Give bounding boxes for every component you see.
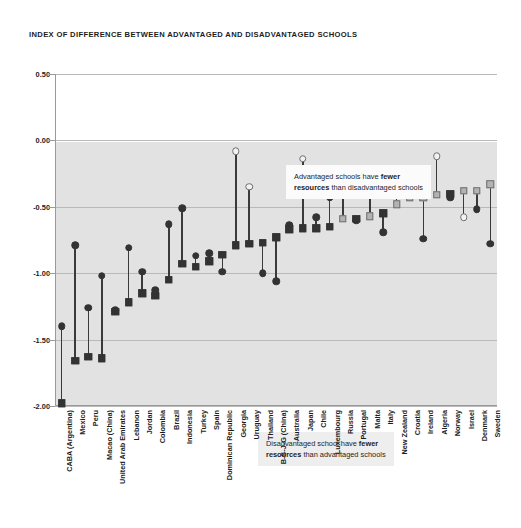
connector-line xyxy=(61,326,63,403)
square-marker xyxy=(272,234,280,242)
circle-marker xyxy=(125,244,133,252)
x-tick-label: Denmark xyxy=(480,410,489,441)
y-tick-label: 0.00 xyxy=(36,136,50,145)
circle-marker xyxy=(433,153,441,161)
circle-marker xyxy=(245,183,253,191)
circle-marker xyxy=(192,252,200,260)
x-tick-label: Malta xyxy=(373,410,382,429)
x-tick-label: Colombia xyxy=(158,410,167,443)
square-marker xyxy=(245,240,253,248)
square-marker xyxy=(473,187,481,195)
chart-title: INDEX OF DIFFERENCE BETWEEN ADVANTAGED A… xyxy=(29,30,357,39)
square-marker xyxy=(393,200,401,208)
x-tick-label: Sweden xyxy=(493,410,502,438)
connector-line xyxy=(490,184,492,244)
x-tick-label: Croatia xyxy=(413,410,422,435)
connector-line xyxy=(74,245,76,361)
x-tick-label: Thailand xyxy=(266,410,275,440)
x-tick-label: Australia xyxy=(292,410,301,441)
grid-line xyxy=(55,74,497,75)
y-axis-labels: 0.500.00-0.50-1.00-1.50-2.00 xyxy=(0,74,50,406)
y-tick-label: -2.00 xyxy=(33,402,50,411)
circle-marker xyxy=(487,240,495,248)
x-axis-labels: CABA (Argentina)MexicoPeruMacao (China)U… xyxy=(55,406,497,528)
connector-line xyxy=(88,308,90,357)
square-marker xyxy=(312,224,320,232)
square-marker xyxy=(299,224,307,232)
circle-marker xyxy=(98,272,106,280)
x-tick-label: New Zealand xyxy=(400,410,409,455)
circle-marker xyxy=(299,155,307,163)
circle-marker xyxy=(473,206,481,214)
x-tick-label: Mexico xyxy=(78,410,87,435)
x-tick-label: Indonesia xyxy=(185,410,194,444)
circle-marker xyxy=(219,268,227,276)
connector-line xyxy=(248,187,250,244)
annotation-advantaged-line1: Advantaged schools have fewer xyxy=(294,172,400,181)
square-marker xyxy=(125,299,133,307)
circle-marker xyxy=(205,250,213,258)
x-tick-label: Norway xyxy=(453,410,462,436)
connector-line xyxy=(128,248,130,302)
square-marker xyxy=(366,212,374,220)
circle-marker xyxy=(272,277,280,285)
square-marker xyxy=(112,308,120,316)
square-marker xyxy=(353,215,361,223)
plot-area: Advantaged schools have fewer resources … xyxy=(55,74,497,406)
square-marker xyxy=(85,353,93,361)
grid-line xyxy=(55,340,497,341)
x-tick-label: Algeria xyxy=(440,410,449,435)
circle-marker xyxy=(71,242,79,250)
grid-line xyxy=(55,140,497,141)
square-marker xyxy=(71,357,79,365)
connector-line xyxy=(275,237,277,281)
square-marker xyxy=(98,354,106,362)
circle-marker xyxy=(379,228,387,236)
x-tick-label: Luxembourg xyxy=(333,410,342,454)
circle-marker xyxy=(420,235,428,243)
square-marker xyxy=(219,251,227,259)
square-marker xyxy=(286,226,294,234)
x-tick-label: Italy xyxy=(386,410,395,425)
square-marker xyxy=(205,257,213,265)
square-marker xyxy=(460,187,468,195)
x-tick-label: Macao (China) xyxy=(105,410,114,460)
circle-marker xyxy=(85,304,93,312)
square-marker xyxy=(152,292,160,300)
square-marker xyxy=(379,210,387,218)
x-tick-label: Uruguay xyxy=(252,410,261,440)
x-tick-label: Georgia xyxy=(239,410,248,438)
y-tick-label: -0.50 xyxy=(33,202,50,211)
x-tick-label: Lebanon xyxy=(132,410,141,440)
circle-marker xyxy=(460,214,468,222)
x-tick-label: Chile xyxy=(319,410,328,428)
connector-line xyxy=(168,224,170,280)
x-tick-label: Brazil xyxy=(172,410,181,430)
x-tick-label: CABA (Argentina) xyxy=(65,410,74,472)
circle-marker xyxy=(165,220,173,228)
square-marker xyxy=(339,215,347,223)
grid-line xyxy=(55,207,497,208)
circle-marker xyxy=(138,268,146,276)
square-marker xyxy=(178,260,186,268)
connector-line xyxy=(101,276,103,358)
x-tick-label: Israel xyxy=(467,410,476,429)
square-marker xyxy=(326,223,334,231)
connector-line xyxy=(235,151,237,245)
y-tick-label: -1.00 xyxy=(33,269,50,278)
connector-line xyxy=(436,156,438,195)
x-tick-label: Peru xyxy=(91,410,100,426)
y-tick-label: -1.50 xyxy=(33,335,50,344)
square-marker xyxy=(138,289,146,297)
square-marker xyxy=(192,263,200,271)
connector-line xyxy=(423,198,425,239)
x-tick-label: Russia xyxy=(346,410,355,434)
x-tick-label: B-S-J-G (China) xyxy=(279,410,288,464)
x-tick-label: Dominican Republic xyxy=(225,410,234,480)
square-marker xyxy=(259,239,267,247)
y-axis-line xyxy=(55,74,56,406)
square-marker xyxy=(446,190,454,198)
circle-marker xyxy=(58,323,66,331)
y-tick-label: 0.50 xyxy=(36,70,50,79)
circle-marker xyxy=(259,269,267,277)
